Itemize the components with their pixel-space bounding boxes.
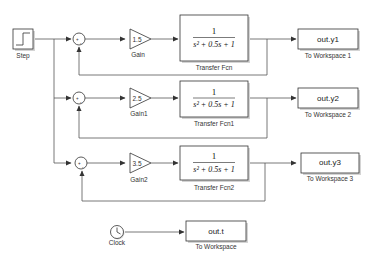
gain1-block[interactable]: 2.5 Gain1 bbox=[130, 88, 151, 117]
to-workspace-3-variable: out.y3 bbox=[319, 158, 341, 167]
sum-plus-sign: + bbox=[76, 37, 79, 42]
tf1-numerator: 1 bbox=[212, 87, 217, 97]
to-workspace-1-block[interactable]: out.y1 To Workspace 1 bbox=[298, 29, 360, 60]
to-workspace-1-variable: out.y1 bbox=[317, 35, 339, 44]
tf-label: Transfer Fcn bbox=[196, 64, 233, 71]
gain-label: Gain bbox=[131, 51, 145, 58]
tf2-denominator: s² + 0.5s + 1 bbox=[193, 165, 234, 174]
tf2-numerator: 1 bbox=[212, 151, 217, 161]
tf2-label: Transfer Fcn2 bbox=[194, 184, 235, 191]
transfer-fcn1-block[interactable]: 1 s² + 0.5s + 1 Transfer Fcn1 bbox=[180, 81, 250, 127]
gain1-label: Gain1 bbox=[130, 110, 148, 117]
transfer-fcn-block[interactable]: 1 s² + 0.5s + 1 Transfer Fcn bbox=[180, 15, 250, 71]
to-workspace-1-label: To Workspace 1 bbox=[305, 52, 352, 60]
signal-lines bbox=[34, 39, 296, 232]
to-workspace-3-label: To Workspace 3 bbox=[307, 175, 354, 183]
step-block[interactable]: Step bbox=[13, 29, 35, 60]
to-workspace-3-block[interactable]: out.y3 To Workspace 3 bbox=[301, 153, 361, 183]
to-workspace-block[interactable]: out.t To Workspace bbox=[186, 221, 248, 251]
sum1-plus-sign: + bbox=[76, 96, 79, 101]
tf-numerator: 1 bbox=[212, 26, 217, 36]
transfer-fcn2-block[interactable]: 1 s² + 0.5s + 1 Transfer Fcn2 bbox=[180, 146, 250, 191]
diagram-canvas: Step + - + - + - 1.5 Gain 2.5 Gain1 3.5 … bbox=[0, 0, 376, 263]
gain1-value: 2.5 bbox=[132, 95, 141, 102]
sum2-block[interactable]: + - bbox=[75, 157, 87, 170]
gain-block[interactable]: 1.5 Gain bbox=[130, 29, 151, 58]
clock-label: Clock bbox=[109, 239, 126, 246]
to-workspace-2-block[interactable]: out.y2 To Workspace 2 bbox=[298, 88, 360, 119]
gain-value: 1.5 bbox=[132, 36, 141, 43]
clock-block[interactable]: Clock bbox=[109, 226, 126, 247]
sum-block[interactable]: + - bbox=[73, 33, 85, 46]
to-workspace-2-variable: out.y2 bbox=[317, 94, 339, 103]
tf-denominator: s² + 0.5s + 1 bbox=[193, 40, 234, 49]
to-workspace-label: To Workspace bbox=[195, 243, 236, 251]
to-workspace-variable: out.t bbox=[208, 227, 224, 236]
sum1-block[interactable]: + - bbox=[73, 92, 85, 105]
gain2-value: 3.5 bbox=[132, 160, 141, 167]
step-label: Step bbox=[16, 52, 30, 60]
gain2-label: Gain2 bbox=[130, 176, 148, 183]
tf1-label: Transfer Fcn1 bbox=[194, 120, 235, 127]
sum2-plus-sign: + bbox=[78, 161, 81, 166]
tf1-denominator: s² + 0.5s + 1 bbox=[193, 100, 234, 109]
to-workspace-2-label: To Workspace 2 bbox=[305, 111, 352, 119]
gain2-block[interactable]: 3.5 Gain2 bbox=[130, 153, 151, 183]
